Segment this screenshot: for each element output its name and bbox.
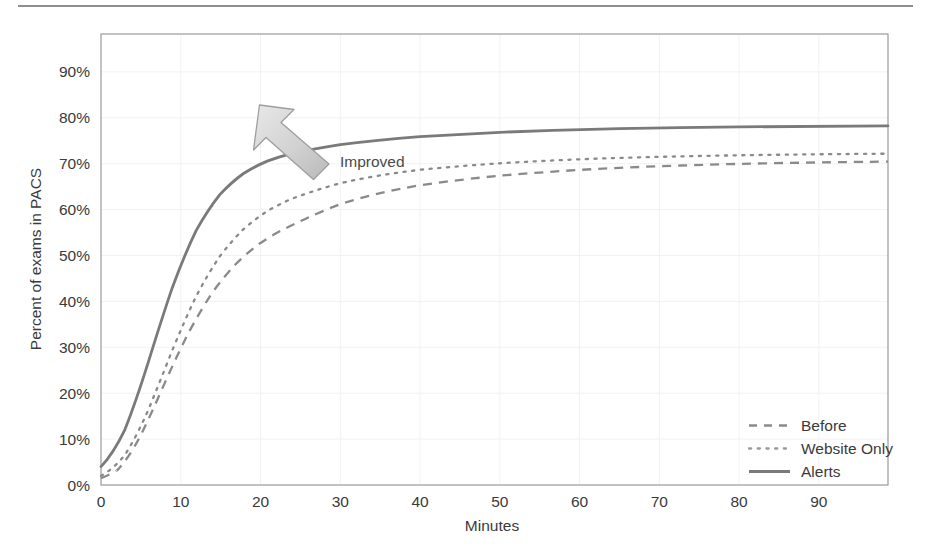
x-tick-label: 30 — [332, 493, 350, 510]
y-tick-label: 30% — [59, 339, 90, 356]
gridlines — [101, 34, 888, 485]
improved-arrow-annotation: Improved — [254, 105, 405, 180]
x-tick-label: 20 — [252, 493, 270, 510]
x-tick-labels: 0 10 20 30 40 50 60 70 80 90 — [97, 493, 828, 510]
y-tick-label: 90% — [59, 63, 90, 80]
x-tick-label: 80 — [730, 493, 748, 510]
x-tick-label: 0 — [97, 493, 106, 510]
legend-label-website-only: Website Only — [801, 440, 893, 457]
y-tick-label: 80% — [59, 109, 90, 126]
y-tick-label: 20% — [59, 385, 90, 402]
x-tick-label: 10 — [172, 493, 190, 510]
y-tick-label: 70% — [59, 155, 90, 172]
legend-label-before: Before — [801, 417, 847, 434]
y-tick-labels: 0% 10% 20% 30% 40% 50% 60% 70% 80% 90% — [59, 63, 90, 493]
figure-container: Improved 0% 10% 20% 30% 40% 50% 60% 70% … — [0, 0, 927, 549]
plot-frame — [101, 34, 888, 485]
series-line-website-only — [101, 154, 888, 476]
y-tick-label: 50% — [59, 247, 90, 264]
x-tick-label: 40 — [411, 493, 429, 510]
x-tick-label: 50 — [491, 493, 509, 510]
x-axis-title: Minutes — [465, 517, 520, 534]
y-tick-label: 60% — [59, 201, 90, 218]
line-chart: Improved 0% 10% 20% 30% 40% 50% 60% 70% … — [0, 0, 927, 549]
improved-label: Improved — [340, 153, 405, 170]
series-line-before — [101, 162, 888, 479]
x-tick-label: 60 — [571, 493, 589, 510]
y-tick-label: 0% — [68, 477, 91, 494]
y-axis-title: Percent of exams in PACS — [27, 168, 44, 350]
x-tick-label: 90 — [810, 493, 828, 510]
y-tick-label: 40% — [59, 293, 90, 310]
chart-legend: Before Website Only Alerts — [749, 417, 893, 480]
legend-label-alerts: Alerts — [801, 463, 841, 480]
x-tick-label: 70 — [651, 493, 669, 510]
arrow-shape — [254, 105, 330, 180]
y-tick-label: 10% — [59, 431, 90, 448]
